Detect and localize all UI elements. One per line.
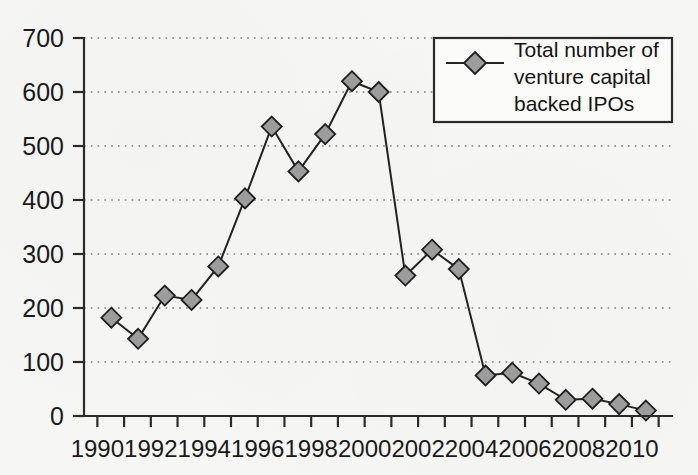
x-tick-label-2008: 2008 <box>552 435 605 462</box>
data-point-2007 <box>556 390 576 410</box>
data-point-2009 <box>609 394 629 414</box>
data-point-2005 <box>502 363 522 383</box>
series-line-group <box>101 71 656 420</box>
data-point-1994 <box>208 256 228 276</box>
y-axis-ticks <box>73 38 84 416</box>
data-point-2008 <box>582 389 602 409</box>
x-tick-label-2002: 2002 <box>391 435 444 462</box>
y-tick-label-600: 600 <box>22 78 64 106</box>
line-chart: 0100200300400500600700 19901992199419961… <box>0 0 698 475</box>
x-axis-ticks <box>97 416 658 427</box>
x-tick-label-1992: 1992 <box>124 435 177 462</box>
data-point-2010 <box>636 401 656 421</box>
x-tick-label-2006: 2006 <box>498 435 551 462</box>
y-tick-label-300: 300 <box>22 240 64 268</box>
y-axis-tick-labels: 0100200300400500600700 <box>22 24 64 430</box>
chart-container: 0100200300400500600700 19901992199419961… <box>0 0 698 475</box>
x-tick-label-2010: 2010 <box>605 435 658 462</box>
data-point-2003 <box>449 259 469 279</box>
x-tick-label-1996: 1996 <box>231 435 284 462</box>
data-point-1991 <box>128 329 148 349</box>
data-point-1992 <box>155 286 175 306</box>
x-tick-label-2004: 2004 <box>445 435 498 462</box>
legend-label-line-2: venture capital <box>514 65 651 88</box>
legend-label-line-1: Total number of <box>514 38 659 61</box>
y-tick-label-100: 100 <box>22 348 64 376</box>
data-point-1990 <box>101 308 121 328</box>
y-tick-label-0: 0 <box>50 402 64 430</box>
x-tick-label-1998: 1998 <box>284 435 337 462</box>
legend[interactable]: Total number of venture capital backed I… <box>434 38 672 122</box>
data-point-2006 <box>529 374 549 394</box>
data-point-2004 <box>476 366 496 386</box>
x-tick-label-1990: 1990 <box>71 435 124 462</box>
x-tick-label-1994: 1994 <box>178 435 231 462</box>
x-tick-label-2000: 2000 <box>338 435 391 462</box>
data-point-1999 <box>342 71 362 91</box>
data-point-1998 <box>315 124 335 144</box>
y-tick-label-500: 500 <box>22 132 64 160</box>
data-point-2000 <box>369 82 389 102</box>
data-point-1996 <box>262 117 282 137</box>
y-tick-label-700: 700 <box>22 24 64 52</box>
data-point-1993 <box>182 290 202 310</box>
series-line <box>111 81 646 410</box>
y-tick-label-400: 400 <box>22 186 64 214</box>
data-point-1995 <box>235 188 255 208</box>
y-tick-label-200: 200 <box>22 294 64 322</box>
data-point-1997 <box>288 161 308 181</box>
legend-label-line-3: backed IPOs <box>514 92 634 115</box>
x-axis-tick-labels: 1990199219941996199820002002200420062008… <box>71 435 659 462</box>
